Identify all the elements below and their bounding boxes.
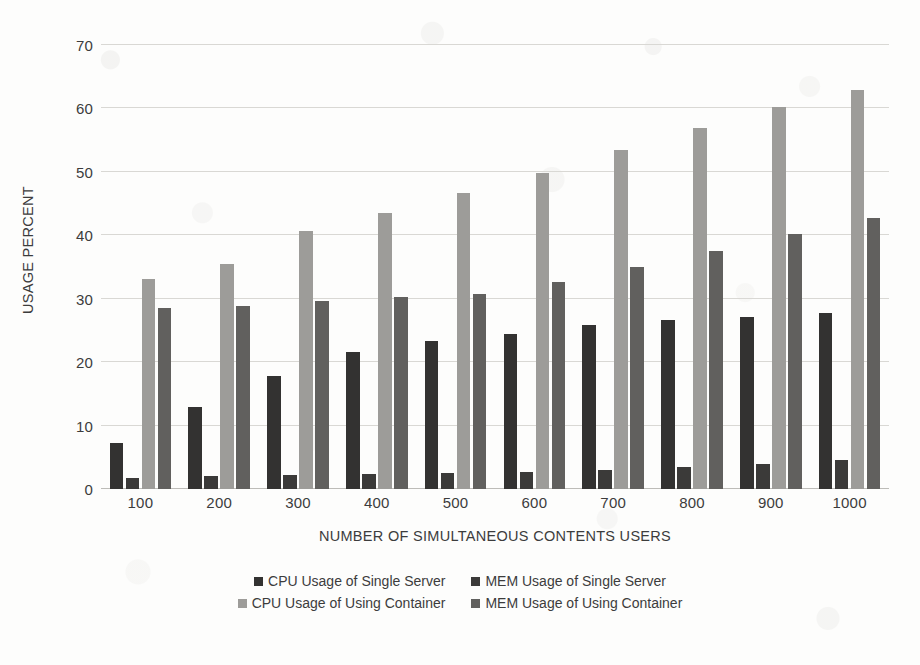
bar — [142, 279, 156, 489]
bar — [693, 128, 707, 489]
bar-group-1000 — [810, 45, 889, 489]
legend-swatch-icon — [254, 577, 263, 586]
legend-item[interactable]: CPU Usage of Single Server — [254, 573, 445, 589]
bar-group-400 — [337, 45, 416, 489]
x-axis-title: NUMBER OF SIMULTANEOUS CONTENTS USERS — [101, 528, 889, 544]
bar — [441, 473, 455, 489]
bar — [819, 313, 833, 489]
legend-item-label: CPU Usage of Using Container — [252, 595, 446, 611]
bar — [598, 470, 612, 489]
bar — [630, 267, 644, 489]
y-tick-label-70: 70 — [76, 37, 93, 54]
bar — [835, 460, 849, 489]
bar — [788, 234, 802, 489]
y-tick-label-60: 60 — [76, 100, 93, 117]
bar — [867, 218, 881, 489]
bar-group-700 — [574, 45, 653, 489]
legend-swatch-icon — [471, 577, 480, 586]
bar — [582, 325, 596, 489]
x-tick-label-200: 200 — [206, 494, 232, 511]
bar-group-100 — [101, 45, 180, 489]
legend-item-label: CPU Usage of Single Server — [268, 573, 445, 589]
y-axis-tick-labels: 010203040506070 — [48, 45, 93, 489]
bar — [504, 334, 518, 489]
bar — [362, 474, 376, 489]
bar — [473, 294, 487, 489]
bar-chart-figure: USAGE PERCENT 010203040506070 1002003004… — [0, 0, 920, 665]
legend-swatch-icon — [471, 599, 480, 608]
bar — [772, 107, 786, 489]
x-tick-label-700: 700 — [600, 494, 626, 511]
y-tick-label-30: 30 — [76, 290, 93, 307]
legend-swatch-icon — [238, 599, 247, 608]
y-tick-label-50: 50 — [76, 163, 93, 180]
bar — [552, 282, 566, 489]
bar-group-800 — [653, 45, 732, 489]
x-axis-tick-labels: 1002003004005006007008009001000 — [101, 494, 889, 516]
y-axis-title-text: USAGE PERCENT — [20, 186, 36, 314]
y-tick-label-10: 10 — [76, 417, 93, 434]
chart-legend: CPU Usage of Single ServerMEM Usage of S… — [0, 573, 920, 611]
bar — [299, 231, 313, 489]
bar — [158, 308, 172, 489]
bar-group-200 — [180, 45, 259, 489]
y-tick-label-0: 0 — [84, 481, 93, 498]
bar — [204, 476, 218, 489]
y-axis-title: USAGE PERCENT — [6, 0, 50, 500]
y-tick-label-40: 40 — [76, 227, 93, 244]
bar — [378, 213, 392, 489]
legend-item[interactable]: CPU Usage of Using Container — [238, 595, 446, 611]
legend-item[interactable]: MEM Usage of Single Server — [471, 573, 666, 589]
bar — [740, 317, 754, 489]
bar — [394, 297, 408, 489]
bar — [520, 472, 534, 489]
bar — [614, 150, 628, 489]
bar — [425, 341, 439, 489]
bar — [236, 306, 250, 489]
legend-item[interactable]: MEM Usage of Using Container — [471, 595, 682, 611]
plot-area — [101, 45, 889, 489]
bar — [220, 264, 234, 489]
bar — [188, 407, 202, 489]
bar — [661, 320, 675, 489]
legend-row: CPU Usage of Using ContainerMEM Usage of… — [238, 595, 683, 611]
x-tick-label-600: 600 — [522, 494, 548, 511]
bar — [457, 193, 471, 489]
bar — [267, 376, 281, 489]
x-tick-label-100: 100 — [128, 494, 154, 511]
x-tick-label-900: 900 — [758, 494, 784, 511]
x-tick-label-800: 800 — [679, 494, 705, 511]
x-tick-label-300: 300 — [285, 494, 311, 511]
bar — [709, 251, 723, 489]
bar — [851, 90, 865, 489]
bar — [677, 467, 691, 489]
legend-item-label: MEM Usage of Single Server — [485, 573, 666, 589]
y-tick-label-20: 20 — [76, 354, 93, 371]
bar — [756, 464, 770, 489]
bar — [315, 301, 329, 489]
legend-row: CPU Usage of Single ServerMEM Usage of S… — [254, 573, 666, 589]
bar — [126, 478, 140, 489]
bars-layer — [101, 45, 889, 489]
x-tick-label-400: 400 — [364, 494, 390, 511]
bar-group-500 — [416, 45, 495, 489]
x-tick-label-500: 500 — [443, 494, 469, 511]
bar — [536, 173, 550, 489]
bar-group-600 — [495, 45, 574, 489]
bar — [346, 352, 360, 489]
x-tick-label-1000: 1000 — [833, 494, 867, 511]
legend-item-label: MEM Usage of Using Container — [485, 595, 682, 611]
bar-group-900 — [731, 45, 810, 489]
bar — [110, 443, 124, 489]
bar-group-300 — [259, 45, 338, 489]
bar — [283, 475, 297, 489]
